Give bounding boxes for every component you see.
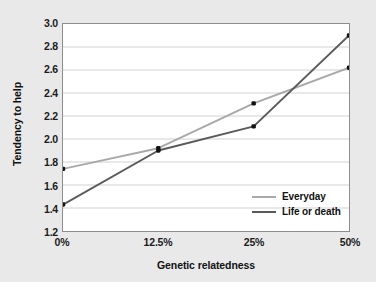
x-axis-tick-label: 0%: [27, 236, 97, 248]
data-point-marker: [63, 202, 65, 206]
x-axis-tick-label: 25%: [219, 236, 289, 248]
x-axis-title: Genetic relatedness: [62, 259, 350, 271]
data-point-marker: [251, 101, 255, 105]
y-axis-tick-label: 2.0: [10, 134, 58, 144]
x-axis-tick-label: 12.5%: [123, 236, 193, 248]
series-line-1: [63, 68, 349, 169]
y-axis-tick-label: 1.4: [10, 204, 58, 214]
data-point-marker: [347, 33, 349, 37]
legend-swatch-icon: [252, 196, 276, 198]
legend-swatch-icon: [252, 211, 276, 213]
y-axis-tick-label: 2.6: [10, 64, 58, 74]
legend-label: Life or death: [282, 206, 341, 217]
data-point-marker: [156, 148, 160, 152]
legend-label: Everyday: [282, 191, 326, 202]
y-axis-tick-label: 1.6: [10, 181, 58, 191]
legend-item-2: Life or death: [252, 205, 352, 218]
x-axis-tick-label: 50%: [315, 236, 376, 248]
data-point-marker: [251, 124, 255, 128]
legend-item-1: Everyday: [252, 190, 352, 203]
chart-legend: EverydayLife or death: [252, 190, 352, 220]
y-axis-tick-label: 3.0: [10, 18, 58, 28]
series-line-2: [63, 35, 349, 204]
chart-figure: Tendency to help 3.02.82.62.42.22.01.81.…: [0, 0, 376, 282]
y-axis-tick-label: 1.8: [10, 157, 58, 167]
data-point-marker: [63, 167, 65, 171]
y-axis-tick-label: 2.2: [10, 111, 58, 121]
data-point-marker: [347, 66, 349, 70]
y-axis-tick-label: 2.8: [10, 41, 58, 51]
y-axis-tick-label: 2.4: [10, 88, 58, 98]
